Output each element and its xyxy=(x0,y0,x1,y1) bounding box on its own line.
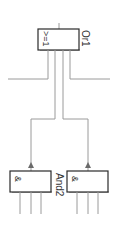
and-left-symbol: & xyxy=(13,176,23,182)
or1-symbol: >=1 xyxy=(41,31,51,47)
and-block-left[interactable]: & xyxy=(10,171,52,193)
and-block-right[interactable]: & xyxy=(67,171,109,193)
right-and-connection-wire[interactable] xyxy=(63,119,88,166)
or1-name-label: Or1 xyxy=(80,30,91,47)
or1-block[interactable]: >=1 xyxy=(38,29,80,51)
logic-diagram-canvas: >=1 Or1 & & And2 xyxy=(0,0,116,236)
and2-name-label: And2 xyxy=(54,173,65,197)
left-arrow-up-icon xyxy=(28,162,34,168)
left-and-connection-wire[interactable] xyxy=(31,119,55,166)
and-right-symbol: & xyxy=(70,176,80,182)
right-arrow-up-icon xyxy=(85,162,91,168)
